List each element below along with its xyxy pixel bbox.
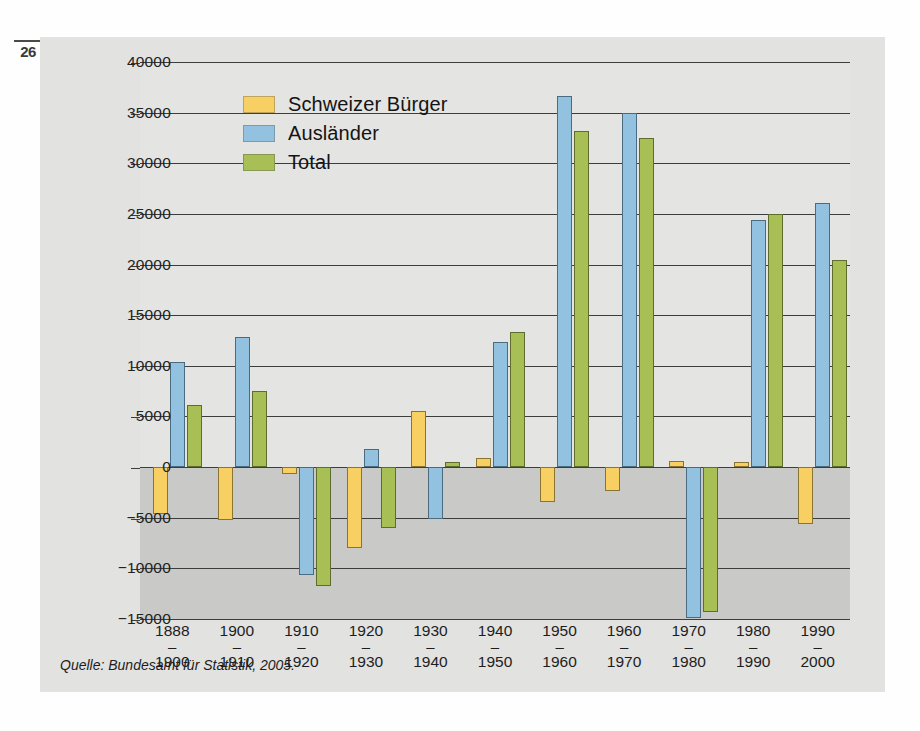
bar	[815, 203, 830, 467]
y-tick-label: −10000	[118, 559, 171, 577]
bar	[347, 467, 362, 548]
x-tick-to: 1990	[736, 653, 770, 670]
bar	[768, 214, 783, 467]
bar	[381, 467, 396, 528]
bar	[798, 467, 813, 524]
bar-group	[463, 62, 528, 619]
x-tick-from: 1888	[155, 622, 189, 639]
page-number: 26	[14, 40, 42, 60]
legend-label: Total	[288, 151, 331, 174]
y-tick-label: 10000	[127, 357, 171, 375]
x-tick-to: 1930	[349, 653, 383, 670]
x-tick-dash: –	[269, 641, 334, 652]
y-tick-label: −5000	[126, 509, 171, 527]
x-tick-from: 1910	[284, 622, 318, 639]
bar	[170, 362, 185, 467]
x-tick-dash: –	[334, 641, 399, 652]
y-tick-label: 35000	[127, 104, 171, 122]
y-tick-label: 25000	[127, 205, 171, 223]
y-tick-label: 5000	[136, 407, 171, 425]
x-tick-dash: –	[785, 641, 850, 652]
bar	[540, 467, 555, 501]
bar-group	[721, 62, 786, 619]
x-tick-from: 1980	[736, 622, 770, 639]
bar	[669, 461, 684, 467]
x-tick-dash: –	[592, 641, 657, 652]
y-tick-mark	[131, 468, 140, 469]
bar	[187, 405, 202, 467]
legend-label: Ausländer	[288, 122, 379, 145]
book-page: 26 4000035000300002500020000150001000050…	[0, 0, 920, 731]
x-tick-to: 1970	[607, 653, 641, 670]
x-tick-dash: –	[721, 641, 786, 652]
x-tick-to: 1960	[542, 653, 576, 670]
chart-legend: Schweizer BürgerAusländerTotal	[243, 90, 447, 177]
bar	[316, 467, 331, 585]
bar	[428, 467, 443, 519]
bar	[411, 411, 426, 467]
bar	[476, 458, 491, 467]
y-tick-label: 40000	[127, 53, 171, 71]
bar	[299, 467, 314, 575]
x-tick-label: 1960–1970	[592, 623, 657, 671]
x-tick-from: 1970	[671, 622, 705, 639]
bar	[605, 467, 620, 491]
x-tick-from: 1950	[542, 622, 576, 639]
x-tick-dash: –	[463, 641, 528, 652]
x-tick-to: 2000	[801, 653, 835, 670]
x-tick-dash: –	[527, 641, 592, 652]
bar	[282, 467, 297, 474]
bar	[751, 220, 766, 467]
x-tick-to: 1980	[671, 653, 705, 670]
bar	[832, 260, 847, 467]
bar	[686, 467, 701, 618]
bar	[445, 462, 460, 467]
bar-group	[592, 62, 657, 619]
x-tick-label: 1920–1930	[334, 623, 399, 671]
y-tick-label: 15000	[127, 306, 171, 324]
gridline	[140, 619, 850, 620]
y-tick-label: 30000	[127, 154, 171, 172]
x-tick-label: 1990–2000	[785, 623, 850, 671]
y-tick-label: 20000	[127, 256, 171, 274]
x-tick-label: 1980–1990	[721, 623, 786, 671]
x-tick-label: 1950–1960	[527, 623, 592, 671]
bar	[734, 462, 749, 467]
bar	[493, 342, 508, 468]
x-tick-from: 1940	[478, 622, 512, 639]
bar	[235, 337, 250, 467]
bar-group	[785, 62, 850, 619]
bar	[703, 467, 718, 612]
legend-label: Schweizer Bürger	[288, 93, 447, 116]
x-tick-from: 1930	[413, 622, 447, 639]
chart-figure: 4000035000300002500020000150001000050000…	[40, 37, 885, 692]
bar	[252, 391, 267, 467]
x-tick-to: 1940	[413, 653, 447, 670]
x-tick-from: 1960	[607, 622, 641, 639]
x-tick-from: 1920	[349, 622, 383, 639]
x-tick-to: 1950	[478, 653, 512, 670]
bar-group	[527, 62, 592, 619]
x-tick-dash: –	[398, 641, 463, 652]
bar	[218, 467, 233, 520]
x-tick-dash: –	[205, 641, 270, 652]
legend-swatch-schweizer-buerger	[243, 96, 275, 113]
bar	[574, 131, 589, 467]
y-tick-label: 0	[162, 458, 171, 476]
bar	[364, 449, 379, 467]
bar	[622, 113, 637, 467]
source-note: Quelle: Bundesamt für Statistik, 2005.	[60, 657, 295, 673]
x-tick-dash: –	[140, 641, 205, 652]
bar-group	[656, 62, 721, 619]
legend-swatch-auslaender	[243, 125, 275, 142]
x-tick-label: 1970–1980	[656, 623, 721, 671]
legend-swatch-total	[243, 154, 275, 171]
x-tick-label: 1930–1940	[398, 623, 463, 671]
bar	[639, 138, 654, 467]
x-tick-from: 1990	[801, 622, 835, 639]
legend-item: Schweizer Bürger	[243, 90, 447, 119]
legend-item: Ausländer	[243, 119, 447, 148]
x-tick-label: 1940–1950	[463, 623, 528, 671]
legend-item: Total	[243, 148, 447, 177]
bar-group	[140, 62, 205, 619]
